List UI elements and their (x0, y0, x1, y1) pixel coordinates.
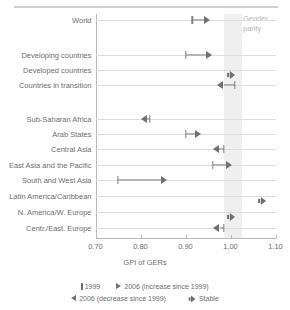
legend-item-decrease: 2006 (decrease since 1999) (71, 295, 166, 302)
stable-marker (258, 192, 267, 201)
x-axis-line (96, 238, 276, 239)
row-guide-line (96, 20, 276, 21)
change-connector-line (220, 227, 224, 228)
marker-2006-increase (226, 161, 232, 169)
x-axis-tick (141, 235, 142, 238)
row-guide-line (96, 149, 276, 150)
x-axis-tick (96, 235, 97, 238)
change-connector-line (147, 118, 150, 119)
category-label: Latin America/Caribbean (9, 192, 91, 201)
legend-label-stable: Stable (199, 295, 219, 302)
gender-parity-line-2: parity (243, 24, 268, 34)
x-axis-tick-label: 0.80 (133, 242, 148, 251)
legend-item-1999: 1999 (81, 283, 100, 290)
change-connector-line (192, 19, 204, 20)
arrow-left-icon (71, 295, 76, 301)
change-connector-line (213, 164, 227, 165)
stable-marker (226, 208, 235, 217)
marker-2006-increase (206, 51, 212, 59)
stable-marker (226, 66, 235, 75)
plot-area: Genderparity0.700.800.901.001.10GPI of G… (0, 0, 290, 310)
change-connector-line (118, 179, 161, 180)
row-guide-line (96, 212, 276, 213)
x-axis-tick (186, 235, 187, 238)
bar-1999-icon (81, 283, 82, 290)
marker-2006-increase (195, 130, 201, 138)
stable-icon (188, 295, 196, 303)
category-label: South and West Asia (22, 176, 92, 185)
row-guide-line (96, 165, 276, 166)
gender-parity-band (224, 14, 242, 238)
legend-row-top: 1999 2006 (increase since 1999) (0, 280, 290, 292)
category-label: Arab States (52, 130, 91, 139)
legend-label-decrease: 2006 (decrease since 1999) (79, 295, 166, 302)
row-guide-line (96, 70, 276, 71)
marker-2006-decrease (213, 224, 219, 232)
gender-parity-line-1: Gender (243, 14, 268, 24)
row-guide-line (96, 196, 276, 197)
row-guide-line (96, 85, 276, 86)
category-label: Developed countries (23, 66, 91, 75)
marker-2006-decrease (213, 145, 219, 153)
marker-2006-increase (161, 176, 167, 184)
x-axis-tick-label: 0.70 (88, 242, 103, 251)
category-label: Developing countries (21, 51, 91, 60)
category-label: N. America/W. Europe (18, 208, 92, 217)
x-axis-title: GPI of GERs (0, 258, 290, 267)
row-guide-line (96, 119, 276, 120)
marker-2006-decrease (141, 115, 147, 123)
chart-legend: 1999 2006 (increase since 1999) 2006 (de… (0, 280, 290, 304)
legend-label-increase: 2006 (increase since 1999) (124, 283, 208, 290)
row-guide-line (96, 228, 276, 229)
change-connector-line (186, 133, 195, 134)
category-label: East Asia and the Pacific (9, 161, 92, 170)
legend-item-increase: 2006 (increase since 1999) (116, 283, 208, 290)
gpi-gers-chart-figure: Genderparity0.700.800.901.001.10GPI of G… (0, 0, 290, 310)
y-axis-line (96, 14, 97, 238)
marker-2006-increase (204, 16, 210, 24)
legend-item-stable: Stable (188, 294, 219, 302)
legend-row-bottom: 2006 (decrease since 1999) Stable (0, 292, 290, 304)
category-label: Countries in transition (19, 81, 92, 90)
marker-2006-decrease (217, 81, 223, 89)
x-axis-tick (231, 235, 232, 238)
legend-label-1999: 1999 (85, 283, 101, 290)
change-connector-line (219, 148, 224, 149)
x-axis-tick-label: 1.00 (223, 242, 238, 251)
category-label: World (72, 16, 91, 25)
change-connector-line (224, 84, 236, 85)
category-label: Central Asia (51, 145, 91, 154)
x-axis-tick-label: 1.10 (268, 242, 283, 251)
category-label: Centr./East. Europe (26, 224, 91, 233)
gender-parity-annotation: Genderparity (243, 14, 268, 33)
x-axis-tick (276, 235, 277, 238)
category-label: Sub-Saharan Africa (26, 115, 91, 124)
arrow-right-icon (116, 283, 121, 289)
x-axis-tick-label: 0.90 (178, 242, 193, 251)
change-connector-line (186, 54, 207, 55)
